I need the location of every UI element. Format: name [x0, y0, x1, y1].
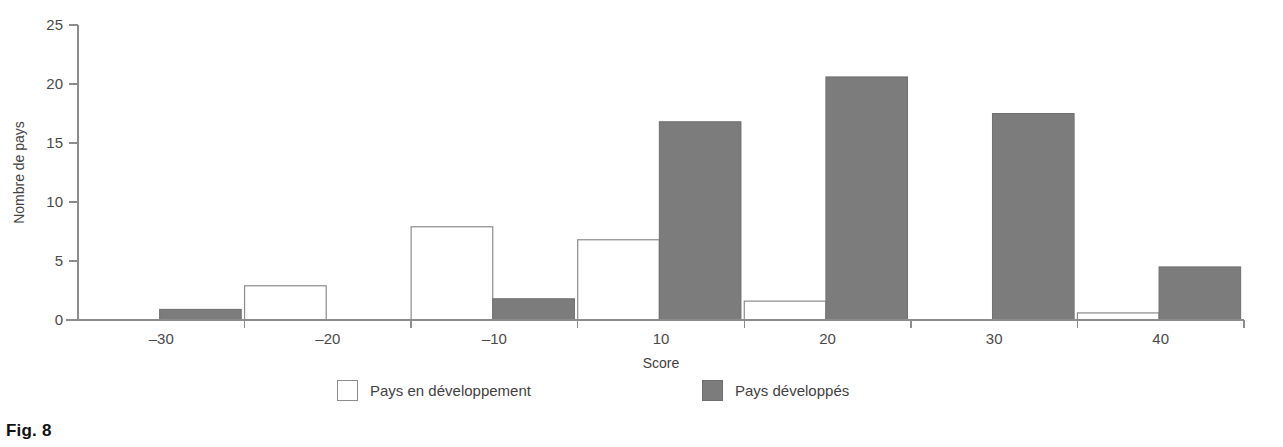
bar-developed	[1159, 267, 1241, 320]
figure-caption: Fig. 8	[6, 421, 52, 441]
gray-square-icon	[702, 380, 723, 401]
x-tick-label: 10	[653, 330, 670, 347]
x-tick-label: –10	[482, 330, 507, 347]
y-tick-label: 20	[46, 75, 63, 92]
x-axis-title: Score	[643, 355, 680, 371]
bar-developed	[160, 309, 242, 320]
y-tick-label: 25	[46, 16, 63, 33]
figure-container: 0510152025–30–20–1010203040ScoreNombre d…	[0, 0, 1283, 447]
y-axis-title: Nombre de pays	[11, 121, 27, 224]
bar-developing	[578, 240, 660, 320]
y-tick-label: 15	[46, 134, 63, 151]
x-tick-label: –30	[149, 330, 174, 347]
bar-developed	[659, 122, 741, 320]
legend-item-developed: Pays développés	[702, 380, 849, 401]
x-tick-label: 40	[1152, 330, 1169, 347]
y-tick-label: 10	[46, 193, 63, 210]
bar-developed	[826, 77, 908, 320]
bar-developing	[411, 227, 493, 320]
chart-legend: Pays en développement Pays développés	[0, 380, 1283, 410]
bar-developed	[493, 299, 575, 320]
x-tick-label: –20	[315, 330, 340, 347]
y-tick-label: 0	[55, 311, 63, 328]
bar-chart: 0510152025–30–20–1010203040ScoreNombre d…	[0, 0, 1283, 380]
legend-item-developing: Pays en développement	[337, 380, 531, 401]
bar-developing	[1077, 313, 1159, 320]
legend-label-developing: Pays en développement	[370, 382, 531, 399]
bar-developed	[992, 114, 1074, 321]
y-tick-label: 5	[55, 252, 63, 269]
bar-developing	[744, 301, 826, 320]
bar-developing	[245, 286, 327, 320]
x-tick-label: 30	[986, 330, 1003, 347]
white-square-icon	[337, 380, 358, 401]
legend-label-developed: Pays développés	[735, 382, 849, 399]
x-tick-label: 20	[819, 330, 836, 347]
